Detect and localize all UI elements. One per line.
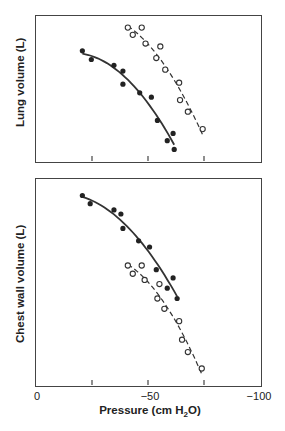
filled-data-point xyxy=(155,118,160,123)
dashed-fit-curve xyxy=(128,264,202,374)
open-data-point xyxy=(177,319,182,324)
lung-volume-y-axis-label: Lung volume (L) xyxy=(14,38,26,127)
filled-data-point xyxy=(89,57,94,62)
dashed-fit-curve xyxy=(128,26,203,135)
solid-fit-curve xyxy=(82,197,177,297)
chest-wall-volume-plot xyxy=(35,178,262,387)
filled-data-point xyxy=(88,201,93,206)
open-data-point xyxy=(177,80,182,85)
open-data-point xyxy=(199,366,204,371)
x-tick-label-0: 0 xyxy=(34,390,40,402)
filled-data-point xyxy=(111,63,116,68)
open-data-point xyxy=(158,44,163,49)
open-data-point xyxy=(125,25,130,30)
open-data-point xyxy=(185,109,190,114)
filled-data-point xyxy=(80,193,85,198)
open-data-point xyxy=(157,281,162,286)
open-data-point xyxy=(154,55,159,60)
lung-volume-plot xyxy=(35,15,262,163)
filled-data-point xyxy=(80,48,85,53)
filled-data-point xyxy=(120,226,125,231)
filled-data-point xyxy=(170,131,175,136)
filled-data-point xyxy=(137,90,142,95)
filled-data-point xyxy=(120,69,125,74)
filled-data-point xyxy=(175,296,180,301)
filled-data-point xyxy=(147,244,152,249)
chest-wall-volume-y-axis-label: Chest wall volume (L) xyxy=(14,225,26,343)
open-data-point xyxy=(162,306,167,311)
filled-data-point xyxy=(170,275,175,280)
x-tick-label-minus-50: −50 xyxy=(141,390,160,402)
open-data-point xyxy=(163,67,168,72)
open-data-point xyxy=(139,25,144,30)
filled-data-point xyxy=(118,211,123,216)
x-tick-label-minus-100: −100 xyxy=(247,390,272,402)
open-data-point xyxy=(155,296,160,301)
open-data-point xyxy=(179,337,184,342)
filled-data-point xyxy=(172,147,177,152)
chest-wall-volume-plot-area xyxy=(36,179,263,388)
open-data-point xyxy=(142,277,147,282)
open-data-point xyxy=(143,41,148,46)
open-data-point xyxy=(130,32,135,37)
open-data-point xyxy=(177,98,182,103)
filled-data-point xyxy=(154,267,159,272)
lung-volume-plot-area xyxy=(36,16,263,164)
filled-data-point xyxy=(165,138,170,143)
open-data-point xyxy=(125,263,130,268)
filled-data-point xyxy=(149,95,154,100)
filled-data-point xyxy=(136,238,141,243)
x-axis-label: Pressure (cm H2O) xyxy=(99,404,201,419)
filled-data-point xyxy=(120,82,125,87)
open-data-point xyxy=(185,349,190,354)
solid-fit-curve xyxy=(82,54,174,145)
filled-data-point xyxy=(111,207,116,212)
open-data-point xyxy=(130,271,135,276)
filled-data-point xyxy=(165,286,170,291)
open-data-point xyxy=(200,127,205,132)
open-data-point xyxy=(139,263,144,268)
